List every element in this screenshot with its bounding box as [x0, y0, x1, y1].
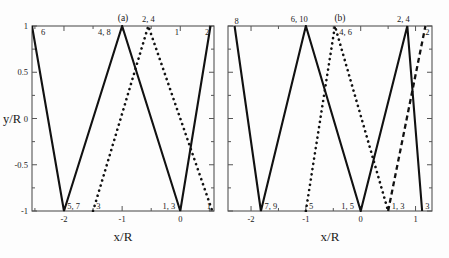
- bounce-label: 5, 7: [67, 201, 80, 211]
- x-tick-label: -2: [60, 214, 67, 224]
- x-tick-label: -2: [247, 214, 254, 224]
- y-tick-label: 0: [24, 114, 28, 124]
- plot-svg-a: -2-1010.50-0.5-164, 82, 4125, 731, 31(a)…: [0, 0, 228, 258]
- bounce-label: 7, 9: [265, 201, 278, 211]
- chart-panel-a: -2-1010.50-0.5-164, 82, 4125, 731, 31(a)…: [0, 0, 228, 258]
- bounce-label: 2: [205, 27, 209, 37]
- curve-solid-trajectory: [32, 26, 211, 211]
- bounce-label: 4, 6: [339, 27, 352, 37]
- x-tick-label: 1: [413, 214, 417, 224]
- y-axis-title: y/R: [3, 112, 22, 126]
- y-tick-label: -1: [21, 206, 28, 216]
- bounce-label: 4, 8: [98, 27, 111, 37]
- x-axis-title: x/R: [321, 229, 340, 244]
- y-tick-label: -0.5: [15, 160, 28, 170]
- x-axis-title: x/R: [114, 229, 133, 244]
- bounce-label: 1, 5: [341, 201, 354, 211]
- panel-tag: (b): [334, 13, 345, 24]
- y-tick-label: 0.5: [17, 67, 28, 77]
- chart-panel-b: -2-10186, 104, 62, 427, 951, 51, 33(b)x/…: [221, 0, 449, 258]
- bounce-label: 6, 10: [291, 14, 308, 24]
- bounce-label: 3: [425, 201, 429, 211]
- bounce-label: 6: [41, 27, 45, 37]
- x-tick-label: 0: [359, 214, 363, 224]
- bounce-label: 2: [425, 27, 429, 37]
- x-tick-label: -1: [119, 214, 126, 224]
- bounce-label: 1: [207, 201, 211, 211]
- bounce-label: 5: [309, 201, 313, 211]
- figure-container: -2-1010.50-0.5-164, 82, 4125, 731, 31(a)…: [0, 0, 449, 258]
- bounce-label: 2, 4: [397, 14, 411, 24]
- plot-svg-b: -2-10186, 104, 62, 427, 951, 51, 33(b)x/…: [221, 0, 449, 258]
- curves-group: [32, 26, 212, 211]
- bounce-label: 1, 3: [392, 201, 405, 211]
- bounce-label: 3: [96, 201, 100, 211]
- bounce-label: 1, 3: [163, 201, 176, 211]
- curves-group: [235, 26, 426, 211]
- bounce-label: 2, 4: [142, 14, 156, 24]
- curve-dotted-trajectory: [306, 26, 388, 211]
- panel-tag: (a): [118, 13, 129, 24]
- y-tick-label: 1: [24, 21, 28, 31]
- x-tick-label: 0: [178, 214, 182, 224]
- x-tick-label: -1: [302, 214, 309, 224]
- bounce-label: 8: [234, 16, 238, 26]
- bounce-label: 1: [175, 27, 179, 37]
